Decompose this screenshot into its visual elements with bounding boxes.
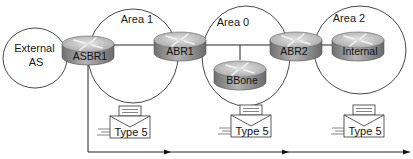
- router-label: Internal: [342, 45, 377, 57]
- area-1-label: Area 1: [121, 13, 153, 25]
- router-label: ABR1: [166, 45, 194, 57]
- router-label: ABR2: [280, 45, 308, 57]
- router-abr2: ABR2: [270, 32, 322, 61]
- area-2-label: Area 2: [333, 12, 365, 24]
- router-label: BBone: [226, 74, 258, 86]
- router-internal: Internal: [332, 32, 384, 61]
- lsa-envelope-2: Type 5: [218, 105, 271, 137]
- router-abr1: ABR1: [154, 32, 206, 61]
- external-as-label: External AS: [14, 42, 57, 68]
- router-label: ASBR1: [73, 50, 108, 62]
- arrow-icon: [282, 150, 289, 155]
- lsa-envelope-3: Type 5: [331, 105, 384, 137]
- lsa-envelope-1: Type 5: [97, 106, 150, 138]
- router-bbone: BBone: [214, 61, 266, 90]
- lsa-label: Type 5: [235, 125, 268, 137]
- arrow-icon: [164, 150, 171, 155]
- ospf-type5-lsa-flooding-diagram: External AS Area 1 Area 0 Area 2 ASBR1 A…: [0, 0, 413, 159]
- arrow-icon: [403, 150, 410, 155]
- lsa-label: Type 5: [348, 125, 381, 137]
- area-0-label: Area 0: [217, 16, 249, 28]
- router-asbr1: ASBR1: [62, 36, 114, 65]
- lsa-label: Type 5: [114, 126, 147, 138]
